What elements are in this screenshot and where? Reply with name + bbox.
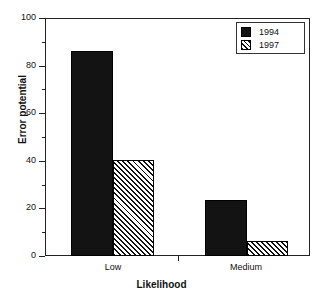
y-tick-mark-0 [39,256,45,257]
y-tick-label-100: 100 [21,11,36,24]
legend-item-1994: 1994 [241,26,300,38]
legend-label-1994: 1994 [259,27,279,38]
y-tick-90 [0,42,45,43]
bar-medium-1994 [205,200,247,256]
bar-chart: 100 80 60 40 20 [0,0,323,299]
bar-medium-1997 [247,241,288,256]
legend-item-1997: 1997 [241,39,300,51]
y-tick-100: 100 [0,18,45,19]
x-tick-label-medium: Medium [230,262,262,272]
legend-label-1997: 1997 [259,40,279,51]
x-tick-label-low: Low [105,262,122,272]
x-tick-mid [178,256,179,261]
legend-hatched-square-icon [241,40,251,50]
y-tick-label-0: 0 [31,249,36,262]
bar-low-1994 [71,51,113,256]
x-axis-title: Likelihood [0,279,323,290]
y-tick-0: 0 [0,256,45,257]
bar-low-1997 [113,160,154,256]
y-tick-30 [0,185,45,186]
legend-solid-square-icon [241,27,251,37]
legend: 1994 1997 [236,22,305,54]
y-tick-10 [0,232,45,233]
y-tick-label-20: 20 [26,201,36,214]
y-tick-20: 20 [0,208,45,209]
y-axis-title: Error potential [17,50,28,170]
